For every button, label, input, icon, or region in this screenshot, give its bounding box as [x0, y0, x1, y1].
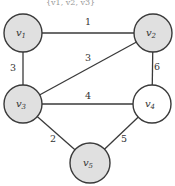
edge-weight-label: 3	[85, 52, 91, 63]
edge-weight-label: 6	[154, 61, 160, 72]
node-v4: v4	[133, 85, 171, 123]
edge-weight-label: 1	[85, 16, 91, 27]
node-v2: v2	[134, 14, 172, 52]
edge-weight-label: 2	[50, 133, 56, 144]
caption-text: {v1, v2, v3}	[46, 0, 95, 7]
edge-weight-label: 4	[85, 90, 91, 101]
graph-diagram: {v1, v2, v3} 1334625 v1v2v3v4v5	[0, 0, 175, 186]
node-v1: v1	[4, 14, 42, 52]
node-v5: v5	[70, 143, 110, 183]
edge-weight-label: 5	[121, 133, 127, 144]
edge-weight-label: 3	[10, 62, 16, 73]
node-v3: v3	[4, 85, 42, 123]
